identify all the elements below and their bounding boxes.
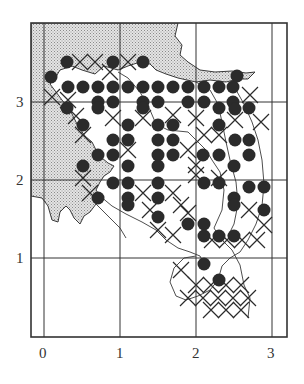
dot-icon	[137, 56, 150, 69]
dot-icon	[213, 149, 226, 162]
cross-icon	[135, 185, 151, 201]
dot-icon	[198, 258, 211, 271]
dot-icon	[152, 81, 165, 94]
dot-icon	[213, 274, 226, 287]
x-tick-2: 2	[192, 346, 200, 361]
dot-icon	[243, 149, 256, 162]
dot-icon	[229, 103, 242, 116]
dot-icon	[167, 119, 180, 132]
x-tick-0: 0	[39, 346, 47, 361]
dot-icon	[243, 134, 256, 147]
dot-icon	[122, 160, 135, 173]
dot-icon	[107, 177, 120, 190]
dot-icon	[122, 119, 135, 132]
y-tick-2: 2	[16, 173, 24, 188]
cross-icon	[241, 202, 257, 218]
dot-icon	[198, 81, 211, 94]
cross-icon	[173, 197, 189, 213]
dot-icon	[152, 177, 165, 190]
dot-icon	[197, 149, 210, 162]
dot-icon	[213, 102, 226, 115]
y-tick-1: 1	[16, 251, 24, 266]
dot-icon	[167, 149, 180, 162]
dot-icon	[122, 134, 135, 147]
dot-icon	[243, 181, 256, 194]
dot-icon	[243, 102, 256, 115]
dot-icon	[152, 211, 165, 224]
dot-icon	[213, 177, 226, 190]
dot-icon	[182, 81, 195, 94]
dot-icon	[107, 81, 120, 94]
dot-icon	[122, 81, 135, 94]
dot-icon	[77, 119, 90, 132]
cross-icon	[165, 227, 181, 243]
dot-icon	[61, 56, 74, 69]
cross-icon	[105, 110, 121, 126]
dot-icon	[198, 177, 211, 190]
dot-icon	[122, 177, 135, 190]
dot-icon	[77, 81, 90, 94]
cross-icon	[256, 217, 272, 233]
dot-icon	[137, 102, 150, 115]
dot-icon	[198, 96, 211, 109]
dot-icon	[92, 81, 105, 94]
dot-icon	[152, 192, 165, 205]
dot-icon	[213, 230, 226, 243]
dot-icon	[152, 160, 165, 173]
cross-icon	[196, 127, 212, 143]
cross-icon	[165, 185, 181, 201]
distribution-map	[0, 0, 304, 384]
dot-icon	[231, 70, 244, 83]
dot-icon	[107, 56, 120, 69]
dot-icon	[107, 149, 120, 162]
cross-icon	[249, 232, 265, 248]
x-tick-1: 1	[116, 346, 124, 361]
dot-icon	[107, 96, 120, 109]
cross-icon	[173, 262, 189, 278]
dot-icon	[152, 96, 165, 109]
dot-icon	[182, 218, 195, 231]
cross-icon	[253, 114, 269, 130]
cross-icon	[180, 142, 196, 158]
cross-icon	[150, 222, 166, 238]
dot-icon	[229, 134, 242, 147]
dot-icon	[92, 149, 105, 162]
dot-icon	[228, 199, 241, 212]
dot-icon	[45, 71, 58, 84]
cross-icon	[242, 87, 258, 103]
dot-icon	[92, 102, 105, 115]
dot-icon	[167, 81, 180, 94]
x-tick-3: 3	[267, 346, 275, 361]
dot-icon	[228, 160, 241, 173]
dot-icon	[213, 119, 226, 132]
dot-icon	[137, 81, 150, 94]
dot-icon	[77, 160, 90, 173]
dot-icon	[182, 96, 195, 109]
dot-icon	[258, 204, 271, 217]
dot-icon	[228, 230, 241, 243]
dot-icon	[107, 134, 120, 147]
dot-icon	[198, 218, 211, 231]
dot-icon	[167, 134, 180, 147]
dot-icon	[258, 181, 271, 194]
dot-icon	[61, 102, 74, 115]
dot-icon	[198, 230, 211, 243]
dot-icon	[213, 81, 226, 94]
dot-icon	[122, 199, 135, 212]
dot-icon	[152, 119, 165, 132]
dot-icon	[92, 192, 105, 205]
dot-icon	[152, 134, 165, 147]
y-tick-3: 3	[16, 95, 24, 110]
dot-icon	[62, 81, 75, 94]
